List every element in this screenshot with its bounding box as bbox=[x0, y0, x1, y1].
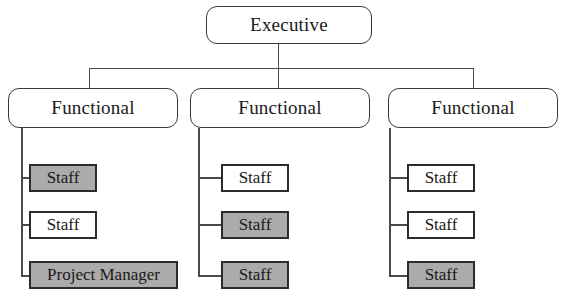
connector-spine-branch-2 bbox=[198, 128, 200, 277]
node-functional-3-label: Functional bbox=[431, 97, 514, 119]
node-branch-2-child-2-label: Staff bbox=[239, 215, 272, 235]
node-branch-1-child-2-label: Staff bbox=[47, 215, 80, 235]
node-branch-1-child-1-label: Staff bbox=[47, 168, 80, 188]
connector-stub-3-2 bbox=[389, 224, 409, 226]
connector-stub-3-1 bbox=[389, 177, 409, 179]
node-branch-2-child-1-label: Staff bbox=[239, 168, 272, 188]
connector-root-bus bbox=[89, 68, 474, 69]
connector-stub-2-2 bbox=[198, 224, 221, 226]
org-chart-diagram: Executive Functional Staff Staff Project… bbox=[0, 0, 561, 301]
node-branch-3-child-3-label: Staff bbox=[425, 265, 458, 285]
node-branch-3-child-1[interactable]: Staff bbox=[407, 164, 475, 192]
node-branch-1-child-3-label: Project Manager bbox=[47, 265, 160, 285]
node-executive-label: Executive bbox=[250, 14, 328, 36]
node-branch-3-child-1-label: Staff bbox=[425, 168, 458, 188]
node-branch-3-child-2[interactable]: Staff bbox=[407, 211, 475, 239]
node-functional-3[interactable]: Functional bbox=[388, 88, 558, 128]
node-branch-3-child-3[interactable]: Staff bbox=[407, 261, 475, 289]
connector-drop-branch-1 bbox=[89, 68, 90, 89]
node-branch-1-child-1[interactable]: Staff bbox=[29, 164, 97, 192]
connector-stub-3-3 bbox=[389, 275, 409, 277]
node-branch-2-child-3-label: Staff bbox=[239, 265, 272, 285]
connector-drop-branch-3 bbox=[473, 68, 474, 89]
node-functional-2[interactable]: Functional bbox=[190, 88, 370, 128]
connector-stub-2-1 bbox=[198, 177, 221, 179]
connector-stub-2-3 bbox=[198, 275, 221, 277]
connector-drop-branch-2 bbox=[278, 68, 279, 89]
node-branch-2-child-2[interactable]: Staff bbox=[221, 211, 289, 239]
node-executive[interactable]: Executive bbox=[206, 6, 372, 44]
connector-spine-branch-1 bbox=[21, 128, 23, 277]
node-functional-1-label: Functional bbox=[51, 97, 134, 119]
node-branch-1-child-2[interactable]: Staff bbox=[29, 211, 97, 239]
node-functional-2-label: Functional bbox=[238, 97, 321, 119]
connector-spine-branch-3 bbox=[389, 128, 391, 277]
node-branch-1-child-3[interactable]: Project Manager bbox=[29, 261, 178, 289]
node-functional-1[interactable]: Functional bbox=[8, 88, 178, 128]
connector-root-stem bbox=[278, 44, 279, 69]
node-branch-2-child-3[interactable]: Staff bbox=[221, 261, 289, 289]
node-branch-3-child-2-label: Staff bbox=[425, 215, 458, 235]
node-branch-2-child-1[interactable]: Staff bbox=[221, 164, 289, 192]
